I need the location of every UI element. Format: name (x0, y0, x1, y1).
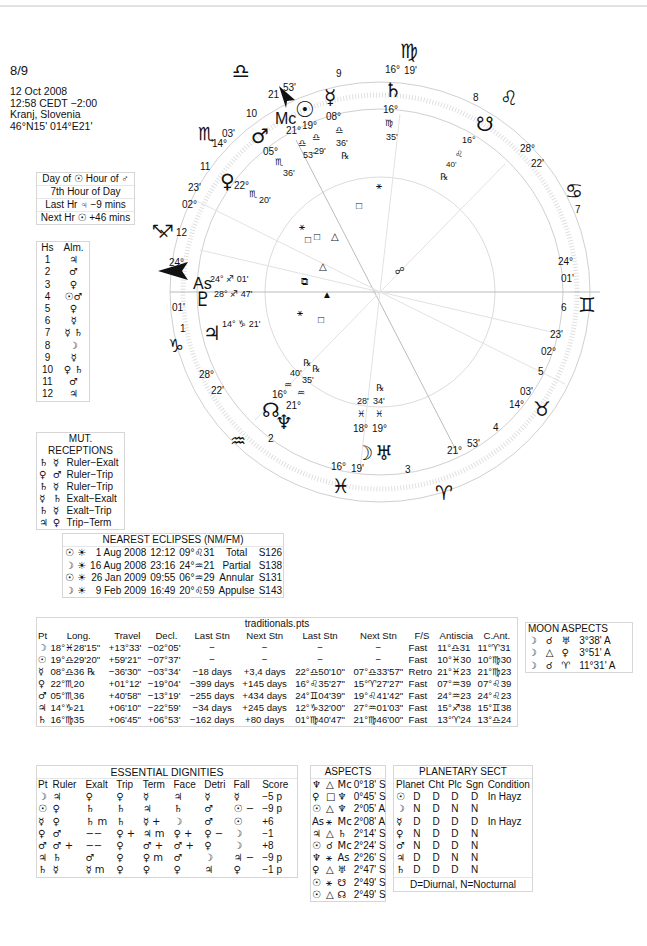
house-12-number: 12 (176, 227, 188, 238)
day-hour-ruler: Day of ☉ Hour of ♂ (37, 173, 134, 186)
moon-min: 28' (357, 396, 369, 406)
house-2-number: 2 (268, 433, 274, 444)
mc-sign: ♎︎ (298, 138, 306, 148)
sun-deg: 19° (302, 120, 317, 131)
aspect-trine-icon: ▲ (322, 289, 332, 300)
table-row: 9☿ (37, 352, 89, 364)
last-hour: Last Hr ♃ −9 mins (37, 199, 134, 212)
table-row: 10♀ ♄ (37, 364, 89, 376)
table-row: ♃♄♂♀♀ m♂☽♃ −−9 p (37, 852, 297, 864)
aspects-panel: ASPECTS ♆△Mc0°18' S ♀□♆0°45' S ☉△♆2°05' … (310, 765, 386, 902)
saturn-icon: ♄ (384, 78, 402, 102)
cusp-8-min: 22' (531, 158, 544, 169)
table-row: ♀□♆0°45' S (311, 791, 387, 803)
cusp-3-deg: 16° (331, 461, 346, 472)
table-row: ☉⚹☋2°49' S (311, 877, 387, 889)
house-6-number: 6 (561, 302, 567, 313)
table-row: ☉ ☀1 Aug 200812:1209°♌31TotalS126 (63, 547, 284, 560)
sect-legend: D=Diurnal, N=Nocturnal (394, 877, 532, 891)
table-row: 5♀ (37, 303, 89, 315)
sign-taurus-icon: ♉︎ (533, 397, 551, 421)
table-row: ☉DDDDIn Hayz (394, 791, 532, 803)
mc-sign-min: 53' (303, 150, 315, 160)
south-node-icon: ☋ (476, 112, 494, 136)
panel-title: ESSENTIAL DIGNITIES (37, 766, 297, 779)
node-deg: 16° (272, 389, 287, 400)
table-row: 11♂ (37, 376, 89, 388)
mercury-min: 36' (336, 138, 348, 148)
ic-deg: 21° (447, 445, 462, 456)
mars-icon: ♂ (251, 124, 269, 148)
node-min: 40' (290, 368, 302, 378)
sun-min: 29' (314, 146, 326, 156)
table-row: ☽☌♈︎11°31' A (526, 660, 632, 672)
cusp-2-deg: 28° (199, 369, 214, 380)
south-node-sign: ♌︎ (455, 149, 463, 159)
panel-title: MUT. RECEPTIONS (37, 433, 124, 457)
dsc-deg: 24° (558, 256, 573, 267)
table-row: ♃△♄2°14' S (311, 828, 387, 840)
uranus-sign: ♓︎ (375, 409, 383, 419)
panel-title: traditionals.pts (37, 618, 517, 630)
table-row: ♄☿☿ m♀♀♀♃♀−1 p (37, 864, 297, 876)
table-row: ☿08°♎︎36 ℞−36'30"−03°34'−18 days+3,4 day… (37, 666, 517, 678)
moon-sign: ♓︎ (357, 409, 365, 419)
sign-virgo-icon: ♍︎ (400, 39, 418, 63)
table-row: 6☿ (37, 315, 89, 327)
uranus-deg: 19° (372, 423, 387, 434)
table-row: ☽18°♓︎28'15"+13°33'−02°05'−−−−Fast11°♎︎3… (37, 642, 517, 654)
uranus-retro: ℞ (376, 383, 384, 393)
node-retro: ℞ (303, 358, 311, 368)
table-row: ♃♀Trip−Term (37, 517, 124, 529)
neptune-sign: ♒︎ (297, 388, 305, 398)
saturn-deg: 16° (383, 104, 398, 115)
table-row: ☽♃♀♀☿♃☿☿−5 p (37, 791, 297, 803)
planetary-hours-panel: Day of ☉ Hour of ♂ 7th Hour of Day Last … (36, 172, 135, 225)
aspect-trine-cluster-icon: △ (319, 261, 327, 272)
south-node-deg: 16° (462, 135, 476, 145)
cusp-12-min: 23' (188, 182, 201, 193)
table-row: 3♀ (37, 279, 89, 291)
aspect-sextile-icon: ⚹ (376, 180, 382, 191)
panel-title: NEAREST ECLIPSES (NM/FM) (63, 534, 283, 547)
mercury-sign: ♎︎ (335, 125, 343, 135)
table-row: ☉△☊2°49' S (311, 889, 387, 901)
cusp-11-deg: 14° (212, 138, 227, 149)
aspect-sextile-icon: ⚹ (297, 307, 303, 318)
table-row: 12♃ (37, 388, 89, 400)
table-row: 2♂ (37, 266, 89, 278)
sign-cancer-icon: ♋︎ (565, 179, 583, 203)
col-header: Hs (37, 242, 58, 254)
house-7-number: 7 (575, 204, 581, 215)
ascendant-text: 24° ♐︎ 01' (210, 274, 249, 284)
uranus-min: 34' (373, 396, 385, 406)
mercury-icon: ☿ (324, 85, 336, 109)
almuten-panel: HsAlm. 1♃ 2♂ 3♀ 4☉♂ 5♀ 6☿ 7☿ ♄ 8☽ 9☿ 10♀… (36, 241, 90, 402)
aspect-sextile-icon: ⚹ (299, 221, 305, 232)
table-row: ♃DDNN (394, 852, 532, 864)
table-row: 8☽ (37, 340, 89, 352)
aspect-opposition-icon: ☍ (395, 265, 405, 276)
sign-gemini-icon: ♊︎ (578, 293, 596, 317)
table-row: ♆△Mc0°18' S (311, 779, 387, 791)
table-row: ♀NDDN (394, 828, 532, 840)
aspect-square-icon: □ (314, 231, 320, 242)
panel-title: MOON ASPECTS (526, 623, 632, 635)
table-row: ♀22°♏︎20+01°12'−19°04'−399 days+145 days… (37, 678, 517, 690)
aspect-square-icon: □ (305, 234, 311, 245)
cusp-2-min: 22' (211, 385, 224, 396)
table-row: ♄☿Ruler−Trip (37, 481, 124, 493)
table-row: ♄☿Exalt−Trip (37, 505, 124, 517)
table-row: ☽ ☀16 Aug 200823:1624°♒︎21PartialS138 (63, 560, 284, 573)
house-9-number: 9 (336, 68, 342, 79)
neptune-icon: ♆ (275, 410, 293, 434)
cusp-12-deg: 02° (182, 199, 197, 210)
venus-min: 20' (259, 195, 271, 205)
mutual-receptions-panel: MUT. RECEPTIONS ♄☿Ruler−Exalt ♀♂Ruler−Tr… (36, 432, 125, 530)
table-header: Pt Long. Travel Decl. Last Stn Next Stn … (37, 630, 517, 642)
table-row: ☽☌♅3°38' A (526, 635, 632, 647)
table-row: ☽ ☀9 Feb 200916:4920°♌59AppulseS143 (63, 585, 284, 598)
table-row: ☉△♆2°05' A (311, 803, 387, 815)
venus-icon: ♀ (220, 169, 235, 193)
aspect-square-icon: □ (318, 314, 324, 325)
